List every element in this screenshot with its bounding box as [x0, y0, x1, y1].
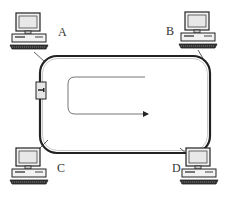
- token-device: [36, 82, 46, 99]
- cable-a: [34, 52, 45, 62]
- network-diagram: [0, 0, 232, 198]
- direction-arrow: [68, 77, 148, 114]
- node-label-b: B: [166, 25, 174, 37]
- computer-b-icon: [179, 12, 217, 48]
- computer-d-icon: [180, 148, 218, 184]
- computer-c-icon: [10, 148, 48, 184]
- node-label-d: D: [172, 162, 181, 174]
- caption: [4, 190, 232, 198]
- node-label-a: A: [58, 26, 67, 38]
- ring-cable: [40, 56, 210, 153]
- computer-a-icon: [10, 13, 48, 49]
- node-label-c: C: [57, 162, 65, 174]
